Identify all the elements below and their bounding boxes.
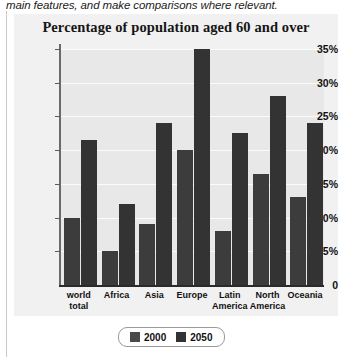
bar-2000-Oceania [290,197,306,285]
bar-2050-world-total [81,140,97,285]
bar-2050-Africa [119,204,135,285]
bar-2000-Africa [102,251,118,285]
bars-layer [60,49,324,285]
chart-legend: 20002050 [118,327,225,347]
legend-swatch-icon [130,332,140,342]
legend-item: 2050 [176,332,212,343]
bar-group [249,49,287,285]
chart-panel: Percentage of population aged 60 and ove… [14,14,338,316]
category-label: North America [249,290,287,312]
instruction-text: main features, and make comparisons wher… [6,0,345,11]
page-edge-rule [6,11,7,357]
x-axis-line [59,285,324,287]
legend-item: 2000 [130,332,166,343]
category-axis-labels: world totalAfricaAsiaEuropeLatin America… [60,290,324,316]
category-label: world total [60,290,98,312]
bar-2050-Latin-America [232,133,248,285]
bar-group [60,49,98,285]
legend-label: 2050 [190,332,212,343]
bar-2000-North-America [253,174,269,285]
chart-title: Percentage of population aged 60 and ove… [14,19,338,36]
bar-group [135,49,173,285]
bar-2000-Asia [139,224,155,285]
legend-label: 2000 [144,332,166,343]
bar-2000-Europe [177,150,193,285]
bar-group [98,49,136,285]
bar-group [173,49,211,285]
bar-2050-North-America [270,96,286,285]
category-label: Latin America [211,290,249,312]
category-label: Africa [98,290,136,301]
category-label: Asia [135,290,173,301]
bar-group [211,49,249,285]
bar-2000-world-total [64,218,80,285]
bar-2050-Europe [194,49,210,285]
category-label: Oceania [286,290,324,301]
legend-swatch-icon [176,332,186,342]
bar-group [286,49,324,285]
category-label: Europe [173,290,211,301]
bar-2000-Latin-America [215,231,231,285]
bar-2050-Oceania [307,123,323,285]
bar-2050-Asia [156,123,172,285]
